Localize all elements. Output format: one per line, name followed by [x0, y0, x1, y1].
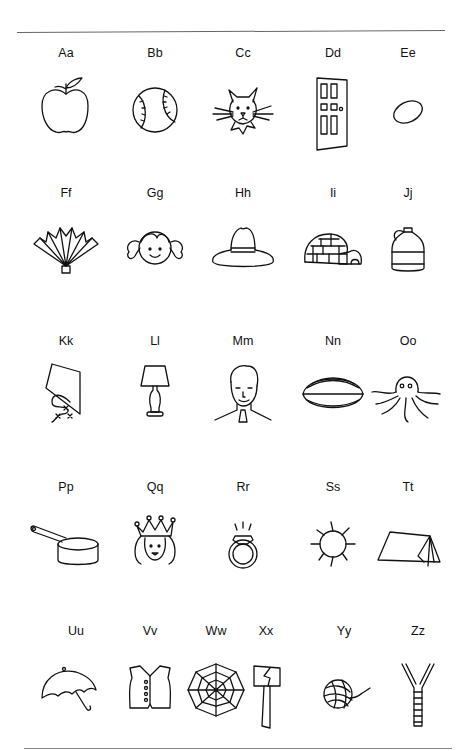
- letter-card-z: Zz: [378, 624, 458, 734]
- letter-card-m: Mm: [203, 334, 283, 444]
- letter-card-i: Ii: [293, 186, 373, 296]
- letter-label: Kk: [26, 334, 106, 348]
- girl-icon: [115, 204, 195, 294]
- letter-card-j: Jj: [368, 186, 448, 296]
- letter-label: Rr: [203, 480, 283, 494]
- letter-label: Pp: [26, 480, 106, 494]
- letter-label: Zz: [378, 624, 458, 638]
- fan-icon: [26, 204, 106, 294]
- top-rule: [17, 30, 445, 33]
- letter-label: Dd: [293, 46, 373, 60]
- letter-card-x: Xx: [226, 624, 306, 734]
- sun-icon: [293, 498, 373, 588]
- baseball-icon: [115, 64, 195, 154]
- letter-label: Qq: [115, 480, 195, 494]
- letter-label: Tt: [368, 480, 448, 494]
- hat-icon: [203, 204, 283, 294]
- letter-card-p: Pp: [26, 480, 106, 590]
- letter-card-s: Ss: [293, 480, 373, 590]
- letter-label: Gg: [115, 186, 195, 200]
- yarn-icon: [304, 642, 384, 732]
- letter-card-d: Dd: [293, 46, 373, 156]
- letter-label: Ff: [26, 186, 106, 200]
- letter-label: Uu: [36, 624, 116, 638]
- ring-icon: [203, 498, 283, 588]
- letter-card-g: Gg: [115, 186, 195, 296]
- letter-card-h: Hh: [203, 186, 283, 296]
- apple-icon: [26, 64, 106, 154]
- pan-icon: [26, 498, 106, 588]
- letter-label: Nn: [293, 334, 373, 348]
- igloo-icon: [293, 204, 373, 294]
- door-icon: [293, 64, 373, 154]
- letter-label: Mm: [203, 334, 283, 348]
- letter-label: Ss: [293, 480, 373, 494]
- umbrella-icon: [36, 642, 116, 732]
- letter-card-k: Kk: [26, 334, 106, 444]
- letter-label: Hh: [203, 186, 283, 200]
- lamp-icon: [115, 352, 195, 442]
- letter-label: Aa: [26, 46, 106, 60]
- letter-label: Jj: [368, 186, 448, 200]
- man-icon: [203, 352, 283, 442]
- nut-icon: [293, 352, 373, 442]
- jug-icon: [368, 204, 448, 294]
- letter-label: Bb: [115, 46, 195, 60]
- letter-card-c: Cc: [203, 46, 283, 156]
- letter-card-r: Rr: [203, 480, 283, 590]
- letter-card-l: Ll: [115, 334, 195, 444]
- letter-card-f: Ff: [26, 186, 106, 296]
- queen-icon: [115, 498, 195, 588]
- egg-icon: [368, 64, 448, 154]
- tent-icon: [368, 498, 448, 588]
- letter-label: Yy: [304, 624, 384, 638]
- letter-card-y: Yy: [304, 624, 384, 734]
- cat-icon: [203, 64, 283, 154]
- zipper-icon: [378, 642, 458, 732]
- letter-label: Oo: [368, 334, 448, 348]
- letter-label: Ll: [115, 334, 195, 348]
- letter-card-q: Qq: [115, 480, 195, 590]
- letter-label: Ii: [293, 186, 373, 200]
- letter-card-t: Tt: [368, 480, 448, 590]
- letter-card-b: Bb: [115, 46, 195, 156]
- letter-label: Cc: [203, 46, 283, 60]
- letter-label: Ee: [368, 46, 448, 60]
- letter-card-e: Ee: [368, 46, 448, 156]
- letter-card-u: Uu: [36, 624, 116, 734]
- bottom-rule: [24, 748, 452, 749]
- octopus-icon: [368, 352, 448, 442]
- ax-icon: [226, 642, 306, 732]
- letter-card-a: Aa: [26, 46, 106, 156]
- letter-label: Xx: [226, 624, 306, 638]
- letter-card-o: Oo: [368, 334, 448, 444]
- kite-icon: [26, 352, 106, 442]
- letter-card-n: Nn: [293, 334, 373, 444]
